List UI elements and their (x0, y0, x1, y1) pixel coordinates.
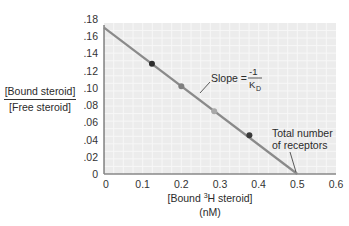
y-tick-labels: 0.02.04.06.08.10.12.14.16.18 (83, 13, 98, 180)
slope-denominator-k: K (249, 79, 256, 90)
y-tick-label: 0 (92, 168, 98, 180)
y-tick-label: .02 (83, 151, 98, 163)
data-point (149, 61, 155, 67)
x-axis-label-post: H steroid] (208, 192, 253, 204)
x-axis-label: [Bound 3H steroid] (nM) (150, 189, 270, 219)
slope-label: Slope = (211, 72, 247, 84)
x-axis-label-pre: [Bound (167, 192, 203, 204)
y-tick-label: .06 (83, 116, 98, 128)
y-tick-label: .04 (83, 134, 98, 146)
y-axis-numerator: [Bound steroid] (4, 85, 76, 100)
y-axis-label: [Bound steroid] [Free steroid] (4, 85, 76, 114)
y-axis-denominator: [Free steroid] (4, 100, 76, 114)
y-tick-label: .18 (83, 13, 98, 25)
x-tick-label: 0.1 (135, 178, 150, 190)
receptors-label-line2: of receptors (272, 139, 327, 151)
slope-numerator: -1 (249, 66, 257, 77)
y-tick-label: .08 (83, 99, 98, 111)
y-tick-label: .12 (83, 65, 98, 77)
x-tick-label: 0 (103, 178, 109, 190)
grid-lines (104, 23, 336, 174)
data-point (178, 83, 184, 89)
x-tick-label: 0.5 (290, 178, 305, 190)
slope-denominator-sub: D (256, 85, 261, 92)
receptors-label-line1: Total number (272, 127, 333, 139)
y-tick-label: .16 (83, 30, 98, 42)
data-point (246, 132, 252, 138)
y-tick-label: .10 (83, 82, 98, 94)
x-axis-units: (nM) (150, 205, 270, 219)
x-tick-label: 0.6 (329, 178, 344, 190)
y-tick-label: .14 (83, 47, 98, 59)
data-point (211, 108, 217, 114)
